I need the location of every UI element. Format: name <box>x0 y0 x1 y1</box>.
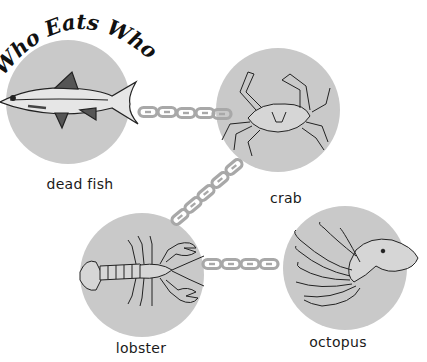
label-lobster: lobster <box>116 340 167 356</box>
label-crab: crab <box>270 190 302 206</box>
food-chain-diagram: Who Eats Who? <box>0 0 427 362</box>
label-octopus: octopus <box>309 334 366 350</box>
chain-lobster-to-octopus <box>203 260 278 269</box>
label-dead-fish: dead fish <box>46 176 113 192</box>
chain-crab-to-lobster <box>170 158 244 226</box>
